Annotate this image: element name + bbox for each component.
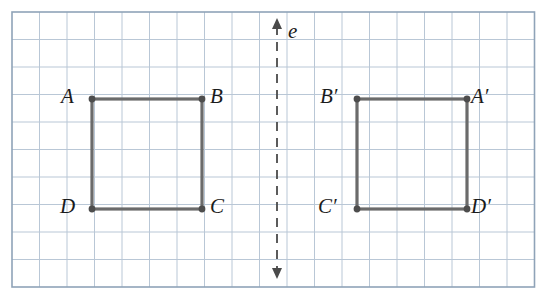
reflection-diagram (0, 0, 556, 293)
vertex-label-a: A (61, 86, 74, 107)
line-label-e: e (288, 21, 297, 42)
vertex-label-d: D (60, 196, 75, 217)
vertex-label-c: C (210, 196, 224, 217)
vertex-point-b-prime (354, 96, 361, 103)
diagram-canvas: A B C D B′ A′ C′ D′ e (0, 0, 556, 293)
vertex-point-b (199, 96, 206, 103)
vertex-point-c-prime (354, 206, 361, 213)
vertex-label-b: B (210, 86, 223, 107)
vertex-label-a-prime: A′ (471, 86, 488, 107)
vertex-label-d-prime: D′ (471, 196, 491, 217)
vertex-label-c-prime: C′ (318, 196, 337, 217)
vertex-point-a (89, 96, 96, 103)
vertex-point-c (199, 206, 206, 213)
vertex-point-d-prime (464, 206, 471, 213)
vertex-point-d (89, 206, 96, 213)
vertex-label-b-prime: B′ (320, 86, 337, 107)
vertex-point-a-prime (464, 96, 471, 103)
